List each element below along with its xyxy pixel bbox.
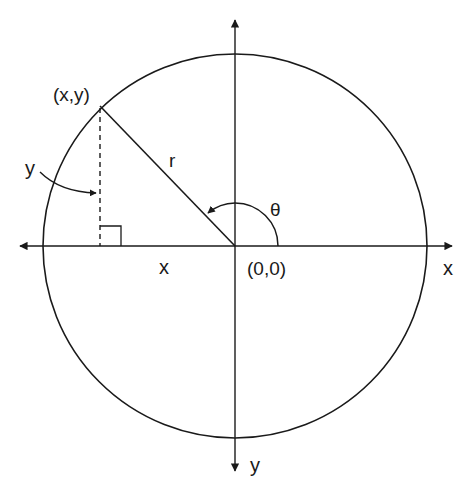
x-axis-label: x [443,257,453,279]
y-segment-label: y [25,157,35,179]
right-angle-marker [100,226,121,246]
theta-arc [208,203,278,246]
y-axis-label: y [250,454,260,476]
origin-label: (0,0) [247,258,286,279]
polar-coordinate-diagram: (x,y) r θ (0,0) x y x y [0,0,461,481]
radius-label: r [169,150,176,171]
y-pointer-arrow [40,172,96,193]
angle-label: θ [270,199,281,220]
point-label: (x,y) [53,84,90,105]
radius-line [100,106,235,246]
x-segment-label: x [159,256,169,278]
